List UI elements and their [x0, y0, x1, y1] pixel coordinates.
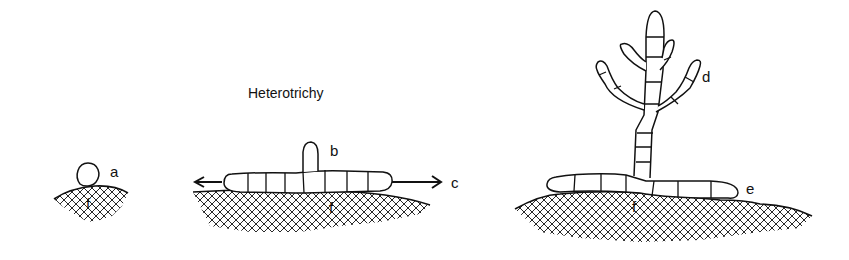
- erect-main-axis: [634, 11, 664, 178]
- branch-left-lower: [596, 61, 644, 110]
- arrow-left-icon: [195, 177, 222, 187]
- stage-heterotrichous-thallus: e f d: [515, 11, 812, 242]
- stage-spore: a f: [54, 163, 128, 222]
- label-c: c: [451, 174, 459, 191]
- label-a: a: [110, 163, 119, 180]
- label-b: b: [330, 142, 338, 159]
- label-e: e: [746, 180, 754, 197]
- erect-initial: [303, 142, 318, 172]
- substratum-hatch: [54, 186, 128, 222]
- arrow-right-icon: [392, 176, 441, 188]
- substratum-hatch: [515, 192, 812, 242]
- prostrate-filament: [224, 171, 392, 193]
- spore-cell: [77, 163, 99, 186]
- diagram-title: Heterotrichy: [248, 85, 323, 101]
- stage-prostrate-filament: b c f: [193, 142, 459, 232]
- branch-left-upper: [620, 44, 646, 71]
- label-d: d: [702, 68, 710, 85]
- heterotrichy-diagram: Heterotrichy a f b c f e f: [0, 0, 849, 260]
